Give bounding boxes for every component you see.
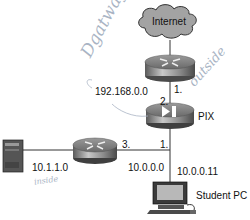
router-icon <box>73 138 117 164</box>
firewall-icon <box>146 103 194 129</box>
lan-network-label: 10.0.0.0 <box>128 163 164 173</box>
gateway-network-label: 192.168.0.0 <box>95 87 148 97</box>
diagram-canvas <box>0 0 250 220</box>
pix-inside-interface-label: 1. <box>160 140 168 150</box>
pc-ip-label: 10.0.0.11 <box>177 167 218 177</box>
internet-label: Internet <box>152 17 186 27</box>
pix-label: PIX <box>198 112 214 122</box>
inside-network-label: 10.1.1.0 <box>32 163 68 173</box>
pix-outside-interface-label: 2. <box>160 97 168 107</box>
pen-stroke <box>112 104 148 116</box>
inside-router-interface-label: 3. <box>122 140 130 150</box>
workstation-icon <box>147 182 196 214</box>
pen-stroke <box>87 80 92 88</box>
server-icon <box>3 140 23 172</box>
student-pc-label: Student PC <box>196 191 247 201</box>
edge-router-interface-label: 1. <box>174 85 182 95</box>
